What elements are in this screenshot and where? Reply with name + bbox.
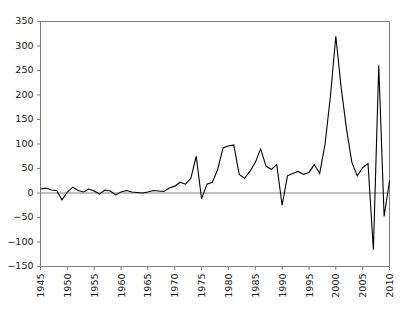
x-tick-label: 1985 [250,274,261,298]
x-tick-label: 2005 [357,274,368,298]
x-tick-label: 1980 [223,274,234,298]
x-tick-label: 2000 [330,274,341,298]
y-tick-label: −100 [7,236,33,247]
x-tick-label: 2010 [384,274,395,298]
x-tick-label: 1955 [89,274,100,298]
y-tick-label: 150 [15,113,33,124]
x-tick-label: 1970 [169,274,180,298]
y-tick-label: −150 [7,260,33,271]
x-tick-label: 1960 [116,274,127,298]
y-tick-label: 350 [15,15,33,26]
line-chart: −150−100−50050100150200250300350 1945195… [0,0,411,313]
x-tick-label: 1990 [277,274,288,298]
y-tick-label: 50 [21,162,33,173]
y-tick-label: 0 [27,187,33,198]
y-tick-label: 250 [15,64,33,75]
x-tick-label: 1995 [304,274,315,298]
y-tick-label: −50 [13,211,33,222]
chart-container: −150−100−50050100150200250300350 1945195… [0,0,411,313]
y-tick-label: 100 [15,138,33,149]
x-tick-label: 1950 [62,274,73,298]
x-tick-label: 1965 [142,274,153,298]
x-tick-label: 1945 [35,274,46,298]
x-tick-label: 1975 [196,274,207,298]
y-tick-label: 300 [15,40,33,51]
y-tick-label: 200 [15,89,33,100]
